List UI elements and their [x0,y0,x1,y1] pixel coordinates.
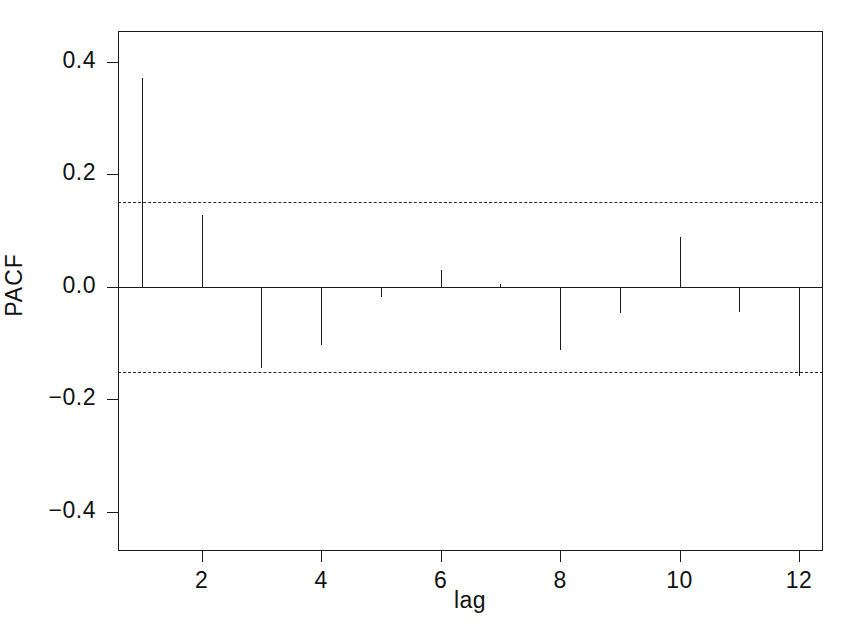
stem-lag-6 [441,270,442,287]
x-axis-title: lag [454,587,486,614]
y-tick-label-3: −0.2 [0,384,96,411]
stem-lag-3 [261,287,262,368]
y-tick-label-1: 0.2 [0,159,96,186]
confidence-band-upper [118,202,823,203]
x-tick-0 [202,551,203,562]
y-tick-4 [107,512,118,513]
y-tick-0 [107,62,118,63]
plot-area [118,31,823,551]
y-tick-2 [107,287,118,288]
x-tick-label-0: 2 [195,567,208,594]
x-tick-label-1: 4 [314,567,327,594]
x-tick-3 [560,551,561,562]
stem-lag-5 [381,287,382,297]
x-tick-label-3: 8 [553,567,566,594]
x-tick-label-2: 6 [434,567,447,594]
y-tick-label-4: −0.4 [0,497,96,524]
zero-line [118,287,823,288]
x-tick-4 [680,551,681,562]
x-tick-label-4: 10 [666,567,693,594]
x-tick-1 [321,551,322,562]
stem-lag-1 [142,78,143,287]
stem-lag-2 [202,215,203,287]
y-axis-title: PACF [1,253,28,317]
stem-lag-8 [560,287,561,351]
stem-lag-4 [321,287,322,345]
stem-lag-11 [739,287,740,312]
y-tick-3 [107,399,118,400]
stem-lag-10 [680,237,681,286]
stem-lag-9 [620,287,621,313]
x-tick-5 [799,551,800,562]
stem-lag-12 [799,287,800,376]
confidence-band-lower [118,372,823,373]
y-tick-1 [107,174,118,175]
y-tick-label-0: 0.4 [0,47,96,74]
x-tick-2 [441,551,442,562]
pacf-figure: 0.40.20.0−0.2−0.4 24681012 PACF lag [0,0,860,641]
x-tick-label-5: 12 [786,567,813,594]
